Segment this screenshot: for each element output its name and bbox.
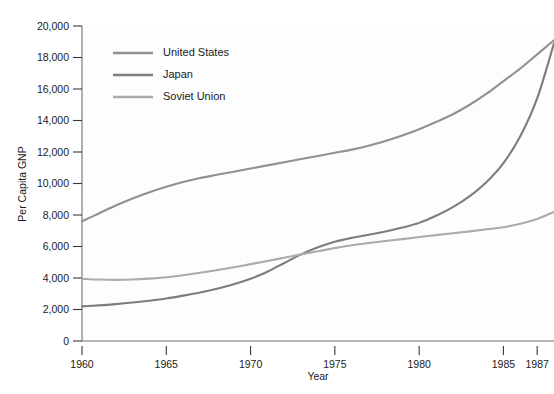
y-tick-label: 10,000 bbox=[37, 177, 69, 189]
y-tick-label: 12,000 bbox=[37, 146, 69, 158]
x-tick-label: 1965 bbox=[155, 358, 179, 370]
y-tick-label: 8,000 bbox=[43, 209, 69, 221]
y-tick-label: 16,000 bbox=[37, 83, 69, 95]
y-tick-label: 4,000 bbox=[43, 272, 69, 284]
y-axis-ticks: 02,0004,0006,0008,00010,00012,00014,0001… bbox=[37, 20, 82, 347]
y-tick-label: 20,000 bbox=[37, 20, 69, 32]
x-tick-label: 1987 bbox=[525, 358, 549, 370]
x-axis-ticks: 1960196519701975198019851987 bbox=[70, 346, 549, 370]
y-tick-label: 14,000 bbox=[37, 114, 69, 126]
legend-label-soviet-union: Soviet Union bbox=[163, 90, 225, 102]
x-tick-label: 1970 bbox=[239, 358, 263, 370]
plot-background bbox=[82, 26, 554, 341]
y-tick-label: 6,000 bbox=[43, 240, 69, 252]
x-tick-label: 1960 bbox=[70, 358, 94, 370]
x-tick-label: 1975 bbox=[323, 358, 347, 370]
y-tick-label: 0 bbox=[63, 335, 69, 347]
line-chart-svg: 02,0004,0006,0008,00010,00012,00014,0001… bbox=[0, 0, 554, 394]
legend-label-japan: Japan bbox=[163, 68, 193, 80]
x-axis-title: Year bbox=[307, 370, 329, 382]
y-axis-title: Per Capita GNP bbox=[16, 146, 28, 221]
x-tick-label: 1985 bbox=[492, 358, 516, 370]
y-tick-label: 18,000 bbox=[37, 51, 69, 63]
chart-container: 02,0004,0006,0008,00010,00012,00014,0001… bbox=[0, 0, 554, 394]
y-tick-label: 2,000 bbox=[43, 303, 69, 315]
x-tick-label: 1980 bbox=[407, 358, 431, 370]
legend-label-united-states: United States bbox=[163, 46, 230, 58]
